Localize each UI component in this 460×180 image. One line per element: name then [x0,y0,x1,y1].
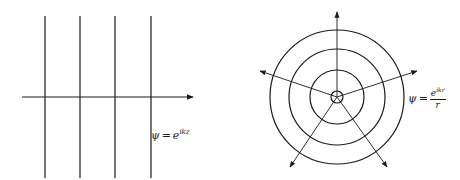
psi-symbol: ψ [408,92,417,105]
fraction-denominator: r [430,100,446,110]
plane-wave-equation-label: ψ=eikz [151,128,190,142]
wave-diagram [0,0,460,180]
radial-ray-arrow [290,97,337,167]
equals-sign: = [419,92,428,105]
fraction-numerator: eikr [430,87,446,100]
equals-sign: = [162,129,171,142]
exp-exponent: ikz [179,128,189,136]
plane-wave-panel [22,16,193,178]
exp-exponent: ikr [436,86,444,93]
fraction: eikrr [430,87,446,110]
psi-symbol: ψ [151,129,160,142]
spherical-wave-panel [260,12,417,167]
spherical-wave-equation-label: ψ=eikrr [408,87,446,110]
radial-ray-arrow [337,71,417,97]
